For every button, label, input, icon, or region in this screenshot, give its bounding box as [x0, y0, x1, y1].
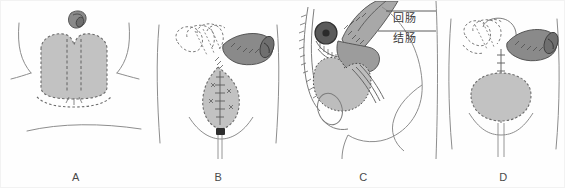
right-edge-line: [436, 1, 438, 159]
stoma-marker: [216, 128, 225, 135]
figure-container: A: [0, 0, 565, 188]
panel-c-illustration: [286, 1, 441, 161]
torso-right-outline: [276, 25, 279, 143]
right-flank-line: [117, 23, 130, 73]
bladder-pouch-shaded: [313, 57, 371, 111]
perineal-line: [342, 135, 348, 159]
panel-b-letter: B: [151, 171, 286, 183]
panel-a: A: [1, 1, 151, 188]
right-flank-branch: [117, 73, 139, 79]
small-bowel-loops-dashed: [176, 24, 225, 52]
panel-c: C: [286, 1, 441, 188]
left-flank-line: [19, 23, 32, 73]
ileal-segment-shaded: [342, 1, 398, 50]
reconstructed-bladder-shaded: [471, 73, 531, 121]
panel-b: B: [151, 1, 286, 188]
panel-d-illustration: [441, 1, 565, 161]
isolated-bowel-segment: [68, 11, 86, 28]
torso-left-outline: [449, 19, 452, 149]
small-bowel-loops-dashed: [463, 20, 503, 54]
panel-a-letter: A: [1, 171, 151, 183]
stoma-dark-disc: [315, 22, 337, 44]
midline-suture-ticks: [66, 97, 82, 105]
catheter-tube: [498, 123, 504, 157]
panel-d: D: [441, 1, 565, 188]
isolated-bowel-segment-shaded: [223, 33, 277, 64]
torso-left-outline: [157, 25, 160, 143]
label-ileum: 回肠: [393, 9, 417, 25]
bowel-conduit-shaded: [507, 30, 561, 61]
panel-d-letter: D: [441, 171, 565, 183]
panel-a-illustration: [1, 1, 151, 161]
panel-b-illustration: [151, 1, 286, 161]
left-flank-branch: [11, 73, 31, 79]
panel-c-letter: C: [286, 171, 441, 183]
mesentery-dashed-lines: [195, 29, 221, 55]
label-colon: 结肠: [393, 29, 417, 45]
lower-abdominal-crease: [27, 125, 141, 131]
reconstructed-bladder-shaded: [203, 67, 240, 129]
